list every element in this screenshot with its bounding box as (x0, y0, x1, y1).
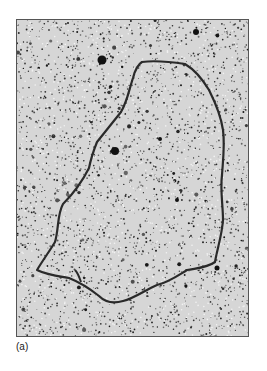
micrograph-image (16, 19, 249, 337)
micrograph-svg (17, 20, 249, 337)
panel-label: (a) (16, 341, 28, 352)
